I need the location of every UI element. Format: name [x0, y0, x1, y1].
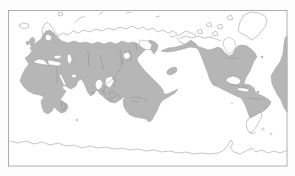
range-dot-canaries: [25, 76, 27, 78]
range-dot-azores: [261, 56, 263, 58]
world-map-svg: [0, 0, 295, 176]
range-dot-bermuda: [245, 50, 248, 53]
range-dot-mascarene: [76, 119, 78, 121]
range-dot-galapagos: [231, 102, 233, 104]
range-dot-cape-verde: [257, 91, 260, 94]
figure-distribution-map: [0, 0, 295, 176]
coast-svalbard: [58, 12, 63, 16]
coast-south-georgia: [270, 133, 272, 135]
coast-falkland-islands: [262, 128, 264, 130]
